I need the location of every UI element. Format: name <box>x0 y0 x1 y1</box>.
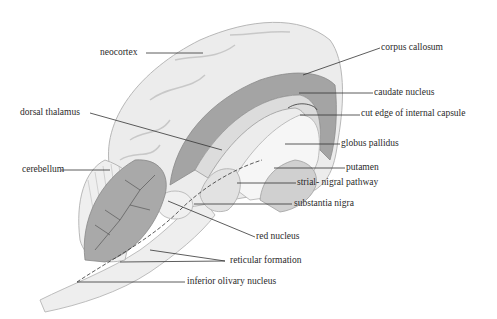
label-red-nucleus: red nucleus <box>256 231 300 242</box>
label-putamen: putamen <box>346 162 379 173</box>
label-caudate-nucleus: caudate nucleus <box>374 87 434 98</box>
brain-diagram: neocortex corpus callosum dorsal thalamu… <box>0 0 497 319</box>
label-neocortex: neocortex <box>100 47 137 58</box>
label-reticular-formation: reticular formation <box>230 255 301 266</box>
label-globus-pallidus: globus pallidus <box>341 138 399 149</box>
label-cut-edge-internal-capsule: cut edge of internal capsule <box>361 108 465 119</box>
label-inferior-olivary-nucleus: inferior olivary nucleus <box>187 276 276 287</box>
label-cerebellum: cerebellum <box>22 164 64 175</box>
label-corpus-callosum: corpus callosum <box>381 42 443 53</box>
label-substantia-nigra: substantia nigra <box>294 198 354 209</box>
label-strial-nigral-pathway: strial- nigral pathway <box>297 177 378 188</box>
label-dorsal-thalamus: dorsal thalamus <box>20 107 80 118</box>
